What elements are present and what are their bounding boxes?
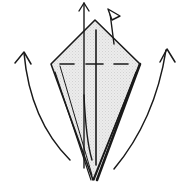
origami-diagram: Origami kite base fold step — [0, 0, 184, 182]
diagram-canvas — [0, 0, 184, 182]
